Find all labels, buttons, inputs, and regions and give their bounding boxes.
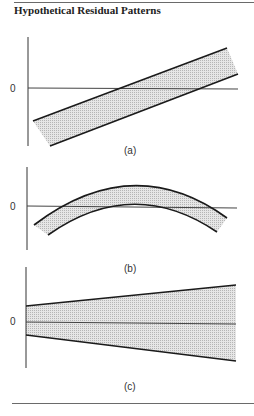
zero-label-b: 0	[10, 201, 16, 212]
band-b	[34, 186, 227, 235]
panel-c: 0 (c)	[10, 267, 236, 392]
residual-patterns-diagram: 0 (a) 0 (b) 0 (c)	[0, 0, 254, 416]
caption-a: (a)	[124, 145, 136, 156]
caption-b: (b)	[124, 263, 136, 274]
band-a	[33, 48, 238, 146]
caption-c: (c)	[124, 381, 136, 392]
panel-a: 0 (a)	[10, 37, 238, 156]
zero-label-c: 0	[10, 316, 16, 327]
zero-line-a	[28, 88, 238, 89]
zero-label-a: 0	[10, 83, 16, 94]
panel-b: 0 (b)	[10, 167, 237, 274]
bottom-rule	[12, 403, 254, 404]
